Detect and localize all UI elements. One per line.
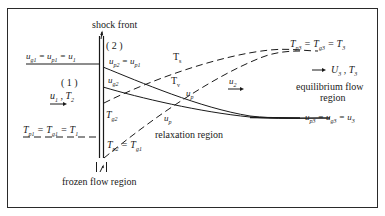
relaxation-region-label: relaxation region [155, 129, 223, 140]
shock-relaxation-diagram [0, 0, 385, 216]
ug2-label: ug2 [108, 75, 119, 90]
frozen-region-label: frozen flow region [62, 176, 136, 187]
upstream-velocity-label: ug1 = up1 = u1 [26, 51, 76, 66]
shock-front-label: shock front [92, 19, 137, 30]
equilibrium-region-label-line2: region [320, 92, 346, 103]
downstream-velocity-line [250, 118, 300, 119]
upstream-temperature-label: Tp1 = Tg1 = T1 [23, 124, 78, 140]
up-upper-label: up [186, 88, 194, 103]
u1-T1-label: u1 , T2 [50, 90, 74, 106]
region-1-label: ( 1 ) [61, 77, 78, 88]
region-2-label: ( 2 ) [106, 40, 123, 51]
equilibrium-region-label-line1: equilibrium flow [296, 81, 364, 92]
up2-label: up2 = up1 [109, 56, 141, 71]
u2-label: u2 [229, 76, 237, 91]
downstream-velocity-label: up3 = ug3 = u3 [305, 112, 355, 127]
Tv-label: Tv [171, 75, 180, 91]
U3-T3-label: U3 , T3 [331, 64, 357, 80]
Tg2-label: Tg2 [106, 109, 118, 125]
downstream-temperature-label: Tp3 = Tg3 = T3 [290, 38, 345, 54]
up-lower-label: up [164, 113, 172, 128]
Tp2-label: Tp2 = Tg1 [107, 139, 142, 155]
particle-velocity-curve [103, 67, 330, 118]
Ts-label: Ts [173, 51, 181, 67]
